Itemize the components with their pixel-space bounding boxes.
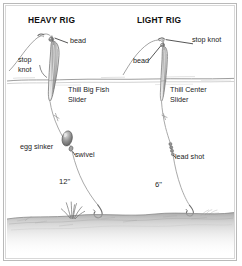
lead-shot-label: lead shot xyxy=(175,153,204,161)
lead-shot-graphic xyxy=(169,142,174,155)
heavy-float-label-line2: Slider xyxy=(68,96,86,104)
light-float-label-line1: Thill Center xyxy=(170,86,207,94)
light-stop-knot-label: stop knot xyxy=(192,36,221,44)
heavy-stop-knot-label-line2: knot xyxy=(18,66,32,74)
leader-light-bead xyxy=(148,46,161,62)
heavy-rig-title: HEAVY RIG xyxy=(28,15,75,25)
heavy-leader-line xyxy=(73,153,98,204)
leader-heavy-stop-knot xyxy=(40,65,47,78)
light-bead-label: bead xyxy=(133,57,149,65)
light-float-label-line2: Slider xyxy=(170,96,188,104)
leader-light-stop-knot xyxy=(166,40,193,44)
light-line-to-shot xyxy=(162,102,171,143)
egg-sinker-label: egg sinker xyxy=(20,143,53,151)
leader-heavy-bead xyxy=(55,38,68,43)
light-leader-line xyxy=(173,156,189,205)
egg-sinker-graphic xyxy=(61,130,74,147)
heavy-bead-label: bead xyxy=(70,37,86,45)
heavy-float-label-line1: Thill Big Fish xyxy=(68,86,109,94)
lake-bottom xyxy=(7,202,234,255)
swivel-label: swivel xyxy=(75,151,95,159)
figure-canvas: HEAVY RIG LIGHT RIG bead stop knot Thill… xyxy=(0,0,242,266)
light-float-graphic xyxy=(160,40,167,102)
heavy-stop-knot-label-line1: stop xyxy=(18,56,32,64)
light-rig-title: LIGHT RIG xyxy=(137,15,181,25)
heavy-leader-length: 12" xyxy=(59,177,70,186)
light-leader-length: 6" xyxy=(155,180,162,189)
heavy-float-graphic xyxy=(48,36,59,102)
